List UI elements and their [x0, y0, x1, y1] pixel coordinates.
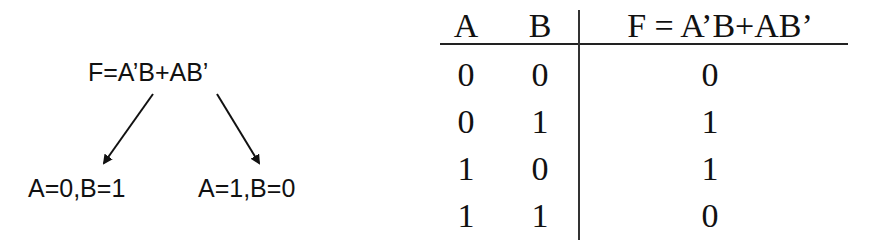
cell-r1-b: 1	[520, 105, 560, 139]
cell-r0-f: 0	[690, 58, 730, 92]
cell-r2-a: 1	[446, 152, 486, 186]
cell-r3-a: 1	[446, 199, 486, 233]
header-b: B	[520, 9, 560, 43]
cell-r3-f: 0	[690, 199, 730, 233]
column-divider	[578, 10, 580, 240]
cell-r0-b: 0	[520, 58, 560, 92]
header-f: F = A’B+AB’	[592, 9, 848, 43]
cell-r1-a: 0	[446, 105, 486, 139]
cell-r3-b: 1	[520, 199, 560, 233]
header-divider	[440, 43, 848, 45]
truth-table: A B F = A’B+AB’ 0 0 0 0 1 1 1 0 1 1 1 0	[0, 0, 870, 248]
cell-r0-a: 0	[446, 58, 486, 92]
cell-r2-f: 1	[690, 152, 730, 186]
cell-r1-f: 1	[690, 105, 730, 139]
cell-r2-b: 0	[520, 152, 560, 186]
header-a: A	[446, 9, 486, 43]
